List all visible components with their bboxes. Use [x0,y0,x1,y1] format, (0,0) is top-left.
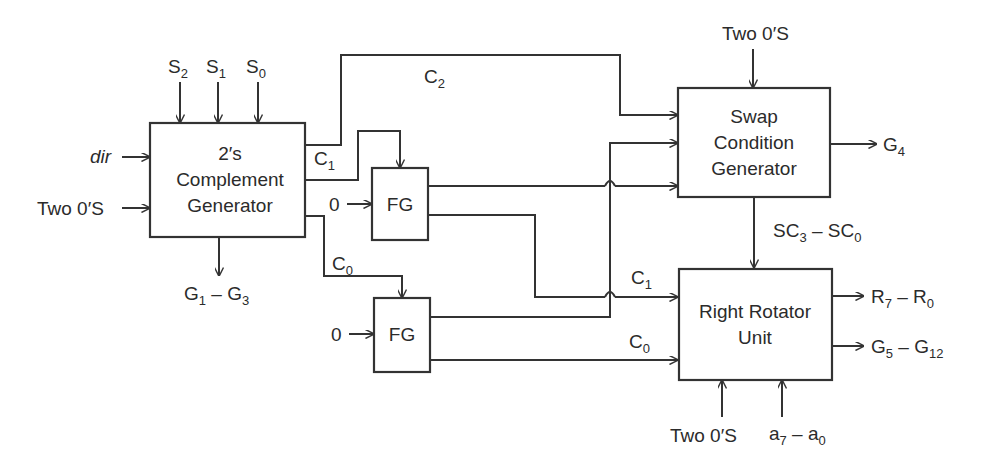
two-zeros-left-label: Two 0′S [37,198,104,219]
fg-bottom-label: FG [389,324,415,345]
fg-top-label: FG [387,194,413,215]
zero-fg-bottom-label: 0 [331,324,342,345]
c0-right-label: C0 [629,331,650,356]
a-range-label: a7 – a0 [769,423,826,448]
g4-label: G4 [883,134,905,159]
s1-label: S1 [206,56,226,81]
right-rotator-unit-block: Right Rotator Unit [679,269,832,380]
fg-top-block: FG 0 [329,168,428,240]
block-label-line1: Swap [730,106,778,127]
g5-g12-label: G5 – G12 [871,336,943,361]
sc-range-label: SC3 – SC0 [773,220,861,245]
fg-bottom-out1-wire [430,143,678,317]
block-label-line2: Condition [714,132,794,153]
twos-complement-generator-block: 2′s Complement Generator [150,123,305,237]
left-inputs: dir Two 0′S [37,146,150,219]
block-label-line3: Generator [711,158,797,179]
swap-condition-generator-block: Swap Condition Generator [678,88,830,197]
two-zeros-swap-label: Two 0′S [722,23,789,44]
block-label-line1: Right Rotator [699,301,812,322]
reversible-barrel-shifter-block-diagram: 2′s Complement Generator S2 S1 S0 dir Tw… [0,0,986,468]
g1-g3-output: G1 – G3 [184,237,249,308]
c1-left-label: C1 [314,148,335,173]
zero-fg-top-label: 0 [329,194,340,215]
select-inputs: S2 S1 S0 [168,56,266,123]
c1-right-label: C1 [631,267,652,292]
fg-top-out2-wire [428,215,605,297]
s2-label: S2 [168,56,188,81]
r-range-label: R7 – R0 [871,286,934,311]
s0-label: S0 [246,56,266,81]
dir-label: dir [90,146,112,167]
c2-label: C2 [424,66,445,91]
g1-g3-label: G1 – G3 [184,283,249,308]
fg-bottom-block: FG 0 [331,298,430,372]
c0-left-label: C0 [332,253,353,278]
block-label-line3: Generator [187,195,273,216]
block-label-line1: 2′s [218,143,242,164]
block-label-line2: Complement [176,169,284,190]
two-zeros-rotator-label: Two 0′S [670,425,737,446]
block-label-line2: Unit [738,327,773,348]
